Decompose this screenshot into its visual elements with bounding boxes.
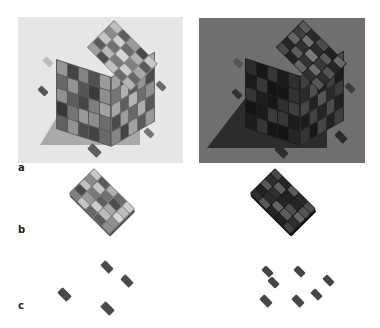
block — [146, 108, 154, 125]
block — [327, 112, 335, 129]
loose-tile — [100, 301, 115, 316]
loose-tile — [57, 287, 72, 302]
block — [246, 115, 256, 131]
block — [57, 116, 67, 132]
row-label-c: c — [18, 300, 24, 311]
panel-a-left — [18, 17, 183, 163]
block — [79, 81, 89, 97]
loose-tile — [310, 288, 322, 300]
loose-tile — [143, 127, 154, 138]
loose-tile — [42, 56, 53, 67]
loose-tile — [100, 260, 114, 274]
block — [89, 85, 99, 101]
row-label-a: a — [18, 162, 25, 173]
loose-tile — [232, 57, 243, 68]
block — [138, 113, 146, 130]
loose-tile — [334, 130, 348, 144]
block — [100, 88, 110, 104]
block — [268, 80, 278, 96]
block — [100, 130, 110, 146]
loose-tile — [344, 82, 355, 93]
loose-tile — [259, 294, 273, 308]
loose-tile — [291, 294, 305, 308]
block — [289, 87, 299, 103]
block — [89, 126, 99, 142]
block — [79, 123, 89, 139]
block — [257, 118, 267, 134]
layer-left — [69, 168, 135, 234]
block — [278, 84, 288, 100]
block — [335, 107, 343, 124]
layer-right — [250, 168, 316, 234]
loose-tile — [155, 80, 166, 91]
loose-tile — [87, 143, 102, 158]
block — [257, 77, 267, 93]
block — [68, 78, 78, 94]
loose-tile — [120, 274, 134, 288]
block — [68, 119, 78, 135]
loose-tile — [293, 265, 305, 277]
block — [268, 122, 278, 138]
row-label-b: b — [18, 224, 25, 235]
loose-tile — [322, 274, 334, 286]
block — [57, 74, 67, 90]
panel-a-right — [199, 18, 365, 163]
block — [278, 125, 288, 141]
block — [246, 73, 256, 89]
loose-tile — [267, 276, 279, 288]
block — [289, 129, 299, 145]
